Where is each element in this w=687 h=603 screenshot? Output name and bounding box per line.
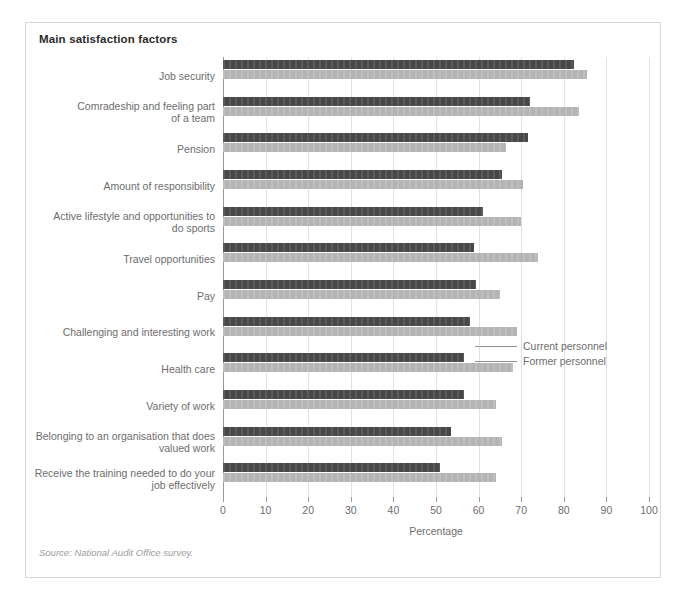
category-label: Receive the training needed to do your j… — [0, 467, 215, 492]
category-label: Belonging to an organisation that does v… — [0, 430, 215, 455]
bar-current-personnel — [223, 463, 440, 472]
bar-former-personnel — [223, 473, 496, 482]
category-label: Amount of responsibility — [0, 180, 215, 193]
x-tick-10 — [266, 497, 267, 502]
x-tick-label-30: 30 — [331, 504, 371, 516]
bar-current-personnel — [223, 170, 502, 179]
bar-former-personnel — [223, 143, 506, 152]
chart-figure: Main satisfaction factors 01020304050607… — [25, 22, 661, 578]
bar-former-personnel — [223, 180, 523, 189]
x-tick-label-70: 70 — [501, 504, 541, 516]
source-note: Source: National Audit Office survey. — [39, 547, 193, 558]
category-label: Pay — [0, 290, 215, 303]
plot-area: 0102030405060708090100 Job securityComra… — [223, 57, 649, 497]
x-tick-20 — [308, 497, 309, 502]
x-tick-label-50: 50 — [416, 504, 456, 516]
x-tick-0 — [223, 497, 224, 502]
x-tick-60 — [479, 497, 480, 502]
x-tick-50 — [436, 497, 437, 502]
bar-current-personnel — [223, 207, 483, 216]
legend-label-current: Current personnel — [523, 339, 607, 354]
bar-current-personnel — [223, 390, 464, 399]
legend-label-former: Former personnel — [523, 354, 606, 369]
gridline-100 — [649, 57, 650, 497]
x-tick-70 — [521, 497, 522, 502]
bar-current-personnel — [223, 317, 470, 326]
bar-current-personnel — [223, 353, 464, 362]
legend-leader-line — [475, 346, 517, 347]
bar-former-personnel — [223, 400, 496, 409]
category-label: Pension — [0, 143, 215, 156]
gridline-90 — [606, 57, 607, 497]
x-tick-label-0: 0 — [203, 504, 243, 516]
bar-current-personnel — [223, 427, 451, 436]
bar-current-personnel — [223, 60, 574, 69]
x-tick-label-90: 90 — [586, 504, 626, 516]
x-tick-100 — [649, 497, 650, 502]
gridline-80 — [564, 57, 565, 497]
bar-current-personnel — [223, 280, 476, 289]
category-label: Active lifestyle and opportunities to do… — [0, 210, 215, 235]
bar-former-personnel — [223, 217, 521, 226]
x-tick-label-40: 40 — [373, 504, 413, 516]
x-tick-40 — [393, 497, 394, 502]
bar-current-personnel — [223, 243, 474, 252]
bar-former-personnel — [223, 107, 579, 116]
bar-current-personnel — [223, 133, 528, 142]
category-label: Job security — [0, 70, 215, 83]
x-tick-label-10: 10 — [246, 504, 286, 516]
bar-former-personnel — [223, 290, 500, 299]
bar-former-personnel — [223, 327, 517, 336]
gridline-70 — [521, 57, 522, 497]
bar-former-personnel — [223, 363, 513, 372]
x-tick-label-60: 60 — [459, 504, 499, 516]
category-label: Comradeship and feeling part of a team — [0, 100, 215, 125]
category-label: Travel opportunities — [0, 253, 215, 266]
bar-former-personnel — [223, 70, 587, 79]
category-label: Variety of work — [0, 400, 215, 413]
x-tick-label-100: 100 — [629, 504, 669, 516]
x-tick-label-80: 80 — [544, 504, 584, 516]
x-tick-80 — [564, 497, 565, 502]
category-label: Health care — [0, 363, 215, 376]
bar-current-personnel — [223, 97, 530, 106]
x-axis-label: Percentage — [223, 525, 649, 537]
category-label: Challenging and interesting work — [0, 326, 215, 339]
x-tick-90 — [606, 497, 607, 502]
page-title: Main satisfaction factors — [39, 33, 178, 45]
x-tick-30 — [351, 497, 352, 502]
legend-leader-line — [475, 361, 517, 362]
x-tick-label-20: 20 — [288, 504, 328, 516]
gridline-60 — [479, 57, 480, 497]
bar-former-personnel — [223, 253, 538, 262]
bar-former-personnel — [223, 437, 502, 446]
